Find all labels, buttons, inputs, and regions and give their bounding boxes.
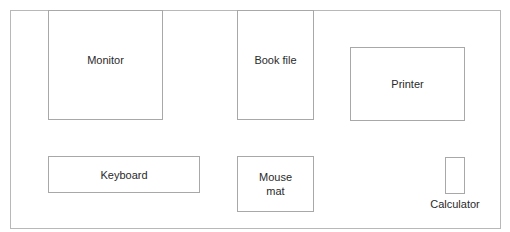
- printer-box: Printer: [350, 47, 465, 121]
- calculator-label: Calculator: [420, 198, 490, 210]
- mouse-mat-label-line1: Mouse: [259, 170, 292, 184]
- mouse-mat-box: Mouse mat: [237, 156, 314, 212]
- monitor-label: Monitor: [87, 53, 124, 67]
- keyboard-box: Keyboard: [48, 156, 200, 193]
- printer-label: Printer: [391, 77, 423, 91]
- book-file-box: Book file: [237, 10, 314, 120]
- book-file-label: Book file: [254, 53, 296, 67]
- monitor-box: Monitor: [48, 10, 163, 120]
- calculator-box: [445, 157, 465, 194]
- keyboard-label: Keyboard: [100, 168, 147, 182]
- mouse-mat-label-line2: mat: [266, 184, 284, 198]
